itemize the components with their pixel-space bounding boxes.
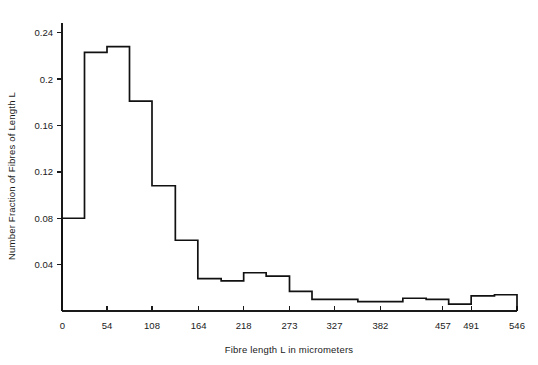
y-tick-label: 0.24 (35, 27, 54, 38)
histogram-plot: 00.040.080.120.160.20.24 541081642182733… (0, 0, 538, 365)
histogram-step-outline (62, 47, 517, 311)
x-tick-label: 327 (327, 320, 343, 331)
y-tick-label: 0.08 (35, 213, 54, 224)
x-tick-label: 382 (372, 320, 388, 331)
y-axis-tick-labels: 00.040.080.120.160.20.24 (35, 27, 66, 331)
y-tick-label: 0.04 (35, 259, 54, 270)
chart-figure: 00.040.080.120.160.20.24 541081642182733… (0, 0, 538, 365)
x-axis-title: Fibre length L in micrometers (225, 344, 354, 355)
x-tick-label: 164 (191, 320, 207, 331)
x-axis-tick-labels: 54108164218273327382457491546 (102, 320, 525, 331)
x-tick-label: 108 (144, 320, 160, 331)
x-tick-label: 491 (463, 320, 479, 331)
y-tick-label: 0.12 (35, 166, 54, 177)
y-tick-label: 0 (60, 320, 65, 331)
y-axis-title: Number Fraction of Fibres of Length L (6, 92, 17, 260)
x-tick-label: 273 (282, 320, 298, 331)
x-tick-label: 457 (435, 320, 451, 331)
x-tick-label: 546 (509, 320, 525, 331)
y-tick-label: 0.16 (35, 120, 54, 131)
x-tick-label: 218 (236, 320, 252, 331)
x-tick-label: 54 (102, 320, 113, 331)
y-tick-label: 0.2 (40, 74, 53, 85)
